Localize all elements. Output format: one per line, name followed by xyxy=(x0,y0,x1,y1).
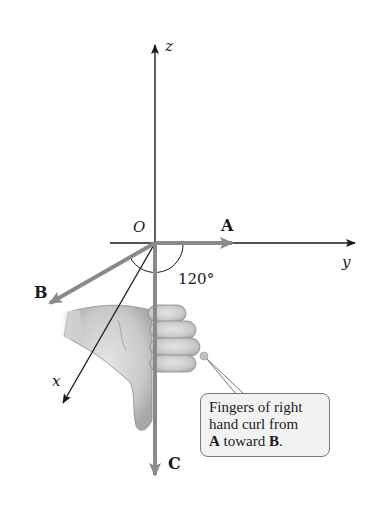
callout-end: . xyxy=(279,433,283,449)
angle-label: 120° xyxy=(178,272,214,287)
callout-pointer xyxy=(206,358,244,394)
y-axis-label: y xyxy=(342,255,350,270)
callout-bold-a: A xyxy=(209,433,220,449)
z-axis-label: z xyxy=(165,39,173,54)
callout-line-3: A toward B. xyxy=(209,433,329,450)
callout-mid: toward xyxy=(220,433,269,449)
callout-line-2: hand curl from xyxy=(209,416,329,433)
vector-c-label: C xyxy=(168,456,181,472)
callout-line-1: Fingers of right xyxy=(209,399,329,416)
vector-b-label: B xyxy=(34,285,48,301)
vector-b xyxy=(50,243,155,303)
diagram-canvas: z y x O A B C 120° Fingers of right hand… xyxy=(0,0,380,510)
right-hand-illustration xyxy=(58,305,200,430)
x-axis-label: x xyxy=(52,374,60,389)
vector-a-label: A xyxy=(221,218,233,234)
callout-bold-b: B xyxy=(269,433,279,449)
callout-box: Fingers of right hand curl from A toward… xyxy=(200,393,330,457)
origin-label: O xyxy=(133,220,145,235)
